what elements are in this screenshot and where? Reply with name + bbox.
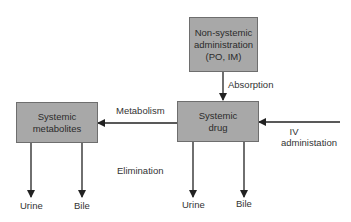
- node-label: Systemic drug: [196, 110, 240, 134]
- node-label: Non-systemic administration (PO, IM): [193, 27, 254, 63]
- output-drug-bile: Bile: [236, 198, 252, 210]
- edge-label-elimination: Elimination: [117, 165, 163, 177]
- edge-label-absorption: Absorption: [228, 79, 273, 91]
- node-label: Systemic metabolites: [31, 111, 83, 135]
- output-metabolites-urine: Urine: [20, 200, 43, 212]
- node-systemic-drug: Systemic drug: [177, 101, 259, 142]
- node-non-systemic-administration: Non-systemic administration (PO, IM): [189, 17, 258, 72]
- edge-label-metabolism: Metabolism: [116, 105, 165, 117]
- node-systemic-metabolites: Systemic metabolites: [16, 102, 98, 143]
- output-metabolites-bile: Bile: [74, 200, 90, 212]
- output-drug-urine: Urine: [182, 199, 205, 211]
- edge-label-iv-administration: administation: [274, 137, 344, 149]
